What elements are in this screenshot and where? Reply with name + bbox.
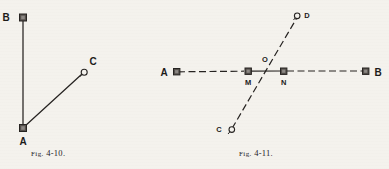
fig411-label-C: C xyxy=(216,125,222,134)
fig411-label-O: O xyxy=(262,55,268,64)
fig411-marker-C xyxy=(228,127,235,134)
fig410-marker-C xyxy=(80,69,88,77)
scanned-page: B A C xyxy=(0,0,389,169)
fig411-marker-B xyxy=(363,68,369,74)
figure-caption-4-10: Fig. 4-10. xyxy=(31,148,65,158)
caption-prefix-4-10: Fig. xyxy=(31,150,44,158)
fig411-label-B: B xyxy=(374,67,381,78)
caption-number-4-11: 4-11. xyxy=(254,148,273,158)
figure-4-11: A M O N B xyxy=(160,11,381,134)
fig410-label-A: A xyxy=(19,136,26,147)
fig411-line-A-M xyxy=(178,71,244,72)
fig410-line-A-C xyxy=(25,74,83,127)
figure-caption-4-11: Fig. 4-11. xyxy=(239,148,273,158)
fig410-marker-A xyxy=(20,125,27,132)
fig411-label-N: N xyxy=(281,78,286,87)
fig411-label-D: D xyxy=(304,11,310,20)
fig411-marker-N xyxy=(281,68,287,74)
fig411-marker-D xyxy=(294,13,301,20)
fig410-marker-B xyxy=(20,14,27,21)
fig410-label-B: B xyxy=(2,12,9,23)
fig411-marker-A xyxy=(174,69,180,75)
figure-4-10: B A C xyxy=(2,12,96,147)
fig410-label-C: C xyxy=(89,56,96,67)
caption-prefix-4-11: Fig. xyxy=(239,150,252,158)
fig411-label-A: A xyxy=(160,67,167,78)
caption-number-4-10: 4-10. xyxy=(46,148,65,158)
fig411-marker-M xyxy=(245,68,251,74)
fig411-label-M: M xyxy=(245,78,251,87)
figures-canvas: B A C xyxy=(0,0,389,169)
